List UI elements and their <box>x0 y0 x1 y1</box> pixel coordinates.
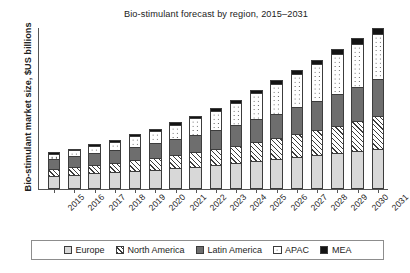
x-axis-tick-label: 2015 <box>66 192 87 213</box>
x-axis-tick-labels: 2015201620172018201920202021202220232024… <box>38 192 388 226</box>
bar-segment-apac <box>189 118 202 135</box>
bar-segment-northamerica <box>189 152 202 166</box>
legend-label: Europe <box>76 246 105 255</box>
bar-group[interactable] <box>68 149 81 189</box>
bar-group[interactable] <box>311 60 324 189</box>
bar-segment-northamerica <box>351 121 364 151</box>
bar-segment-europe <box>189 167 202 189</box>
bar-segment-europe <box>88 173 101 189</box>
x-axis-tick-label: 2023 <box>228 192 249 213</box>
bar-group[interactable] <box>291 70 304 189</box>
bar-segment-europe <box>48 176 61 189</box>
bar-segment-northamerica <box>129 160 142 171</box>
bar-segment-northamerica <box>48 169 61 176</box>
bar-segment-latinamerica <box>88 153 101 165</box>
x-axis-tick-label: 2022 <box>207 192 228 213</box>
bar-segment-latinamerica <box>109 150 122 163</box>
bar-group[interactable] <box>250 90 263 189</box>
legend-label: MEA <box>332 246 352 255</box>
bar-segment-europe <box>270 159 283 189</box>
bar-segment-latinamerica <box>169 139 182 155</box>
bar-segment-apac <box>230 103 243 125</box>
bar-segment-apac <box>331 54 344 94</box>
bar-segment-europe <box>169 168 182 189</box>
legend-item-latinamerica[interactable]: Latin America <box>196 246 263 255</box>
x-axis-tick-label: 2017 <box>106 192 127 213</box>
bar-segment-latinamerica <box>210 130 223 149</box>
bar-segment-europe <box>68 175 81 189</box>
bar-segment-apac <box>250 93 263 119</box>
bar-segment-europe <box>372 149 385 189</box>
x-axis-tick-label: 2028 <box>329 192 350 213</box>
x-axis-tick-label: 2016 <box>86 192 107 213</box>
bar-group[interactable] <box>129 134 142 189</box>
legend-item-apac[interactable]: APAC <box>273 246 309 255</box>
bar-group[interactable] <box>331 49 344 189</box>
bar-segment-northamerica <box>68 167 81 175</box>
bar-segment-latinamerica <box>68 156 81 167</box>
bar-segment-apac <box>291 74 304 107</box>
bar-segment-northamerica <box>291 134 304 157</box>
bar-group[interactable] <box>351 38 364 189</box>
bar-segment-northamerica <box>250 142 263 161</box>
bar-segment-latinamerica <box>250 119 263 141</box>
legend-swatch-apac-icon <box>273 246 282 255</box>
bar-group[interactable] <box>149 129 162 189</box>
legend-label: North America <box>128 246 185 255</box>
legend-item-europe[interactable]: Europe <box>64 246 105 255</box>
bar-segment-europe <box>210 165 223 189</box>
x-axis-tick-label: 2018 <box>126 192 147 213</box>
bar-group[interactable] <box>48 152 61 189</box>
chart-title: Bio-stimulant forecast by region, 2015–2… <box>44 9 388 19</box>
bar-group[interactable] <box>189 116 202 189</box>
bar-segment-apac <box>129 136 142 146</box>
chart-legend: EuropeNorth AmericaLatin AmericaAPACMEA <box>31 240 384 260</box>
y-axis-label: Bio-stimulant market size, $US billions <box>23 17 33 197</box>
x-axis-tick-label: 2027 <box>309 192 330 213</box>
bar-segment-europe <box>230 163 243 189</box>
bar-segment-europe <box>149 170 162 189</box>
x-axis-tick-label: 2030 <box>369 192 390 213</box>
bar-segment-apac <box>149 131 162 143</box>
bar-group[interactable] <box>109 140 122 189</box>
bar-segment-apac <box>351 44 364 87</box>
bar-group[interactable] <box>210 108 223 189</box>
bar-segment-latinamerica <box>230 125 243 146</box>
bar-segment-europe <box>291 157 304 189</box>
bar-group[interactable] <box>169 122 182 189</box>
bar-segment-northamerica <box>270 138 283 159</box>
bar-segment-europe <box>331 153 344 189</box>
x-axis-tick-label: 2029 <box>349 192 370 213</box>
bar-segment-northamerica <box>311 130 324 155</box>
bar-segment-latinamerica <box>48 159 61 169</box>
bar-group[interactable] <box>88 144 101 189</box>
plot-area <box>38 28 388 190</box>
legend-swatch-latinamerica-icon <box>196 246 205 255</box>
legend-item-northamerica[interactable]: North America <box>116 246 185 255</box>
bar-segment-northamerica <box>372 116 385 149</box>
bar-segment-northamerica <box>210 149 223 165</box>
bar-segment-europe <box>109 172 122 189</box>
bar-group[interactable] <box>230 100 243 189</box>
bar-segment-northamerica <box>149 158 162 170</box>
bar-segment-europe <box>250 161 263 189</box>
bar-segment-latinamerica <box>129 147 142 161</box>
bar-segment-latinamerica <box>311 101 324 130</box>
bar-segment-northamerica <box>331 126 344 154</box>
bar-segment-apac <box>372 34 385 79</box>
legend-swatch-mea-icon <box>320 246 329 255</box>
legend-label: Latin America <box>208 246 263 255</box>
bar-segment-latinamerica <box>270 114 283 138</box>
bar-group[interactable] <box>270 80 283 189</box>
legend-swatch-europe-icon <box>64 246 73 255</box>
x-axis-tick-label: 2024 <box>248 192 269 213</box>
legend-label: APAC <box>285 246 309 255</box>
legend-item-mea[interactable]: MEA <box>320 246 352 255</box>
bar-series-container <box>38 28 388 189</box>
bar-segment-northamerica <box>109 163 122 172</box>
bar-segment-apac <box>311 64 324 101</box>
bar-group[interactable] <box>372 28 385 189</box>
bar-segment-northamerica <box>88 165 101 173</box>
bar-segment-apac <box>109 142 122 150</box>
